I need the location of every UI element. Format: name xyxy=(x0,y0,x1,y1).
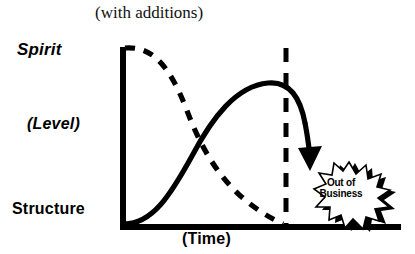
collapse-arrow-head xyxy=(298,146,322,171)
diagram-canvas: (with additions) Spirit (Level) Structur… xyxy=(0,0,415,254)
burst-line-2: Business xyxy=(314,189,368,200)
out-of-business-annotation: Out of Business xyxy=(314,178,368,199)
structure-curve xyxy=(124,83,305,224)
burst-line-1: Out of xyxy=(314,178,368,189)
chart-svg xyxy=(0,0,415,254)
